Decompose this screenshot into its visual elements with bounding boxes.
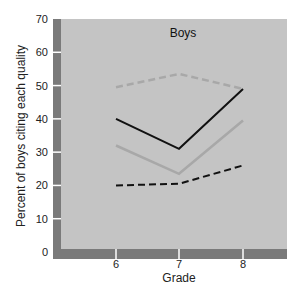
- y-tick-label: 60: [36, 46, 48, 58]
- x-tick-label: 8: [240, 258, 246, 270]
- y-tick-label: 50: [36, 80, 48, 92]
- y-tick-label: 30: [36, 146, 48, 158]
- x-axis-frame: [53, 249, 287, 259]
- y-axis-title: Percent of boys citing each quality: [14, 45, 28, 227]
- x-axis-title: Grade: [162, 271, 196, 285]
- y-tick-label: 20: [36, 179, 48, 191]
- y-tick-label: 70: [36, 13, 48, 25]
- line-chart: 010203040506070 678 Boys Grade Percent o…: [0, 0, 300, 294]
- x-tick-label: 7: [176, 258, 182, 270]
- plot-area: [61, 19, 287, 249]
- y-tick-label: 10: [36, 213, 48, 225]
- y-tick-label: 40: [36, 113, 48, 125]
- y-tick-label: 0: [42, 246, 48, 258]
- x-tick-label: 6: [113, 258, 119, 270]
- chart-title: Boys: [170, 26, 197, 40]
- y-axis-frame: [53, 19, 61, 259]
